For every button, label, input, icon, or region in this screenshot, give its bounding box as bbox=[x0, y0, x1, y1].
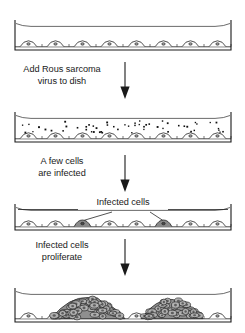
figure-canvas: Add Rous sarcoma virus to dish A few cel… bbox=[0, 0, 245, 333]
dish-panel-normal-monolayer bbox=[0, 14, 245, 58]
dish-drawing-2 bbox=[0, 106, 245, 150]
infected-cells-annotation-label: Infected cells bbox=[80, 197, 166, 209]
step-caption-add-virus: Add Rous sarcoma virus to dish bbox=[12, 64, 112, 87]
dish-panel-virus-added bbox=[0, 106, 245, 150]
dish-drawing-4 bbox=[0, 282, 245, 330]
dish-drawing-1 bbox=[0, 14, 245, 58]
step-caption-few-infected: A few cells are infected bbox=[12, 156, 112, 179]
step-caption-proliferate: Infected cells proliferate bbox=[12, 240, 112, 263]
step-arrow-add-virus bbox=[110, 60, 140, 102]
step-arrow-few-infected bbox=[110, 153, 140, 195]
step-arrow-proliferate bbox=[110, 237, 140, 279]
dish-panel-proliferated bbox=[0, 282, 245, 330]
